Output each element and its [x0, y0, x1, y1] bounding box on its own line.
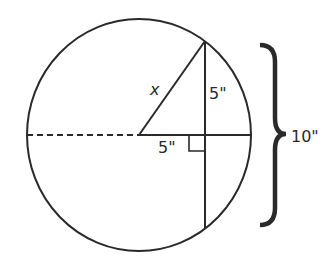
circle-diagram: x 5" 5" 10": [0, 0, 333, 260]
hypotenuse-x: [139, 41, 205, 135]
label-center-distance: 5": [158, 138, 176, 157]
label-half-chord: 5": [209, 84, 227, 103]
label-chord-length: 10": [291, 127, 319, 146]
right-angle-marker: [189, 135, 205, 151]
label-x: x: [149, 80, 160, 99]
curly-brace: [260, 45, 286, 225]
